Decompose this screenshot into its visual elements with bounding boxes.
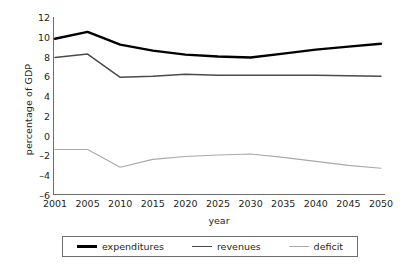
y-tick-label: 10 xyxy=(28,31,50,42)
y-tick-label: –4 xyxy=(28,170,50,181)
x-tick-label: 2030 xyxy=(239,198,263,209)
x-axis-title: year xyxy=(53,215,385,226)
axis-lines xyxy=(53,17,385,195)
x-tick-label: 2025 xyxy=(206,198,230,209)
legend-label-revenues: revenues xyxy=(217,241,261,252)
legend-label-expenditures: expenditures xyxy=(102,241,164,252)
x-tick-label: 2005 xyxy=(76,198,100,209)
plot-canvas xyxy=(53,17,385,195)
y-tick-label: –2 xyxy=(28,150,50,161)
series-lines xyxy=(55,32,381,168)
legend-label-deficit: deficit xyxy=(314,241,343,252)
x-tick-label: 2045 xyxy=(336,198,360,209)
legend-item-revenues: revenues xyxy=(192,241,261,252)
y-axis-tick-labels: 121086420–2–4–6 xyxy=(24,17,50,195)
legend-item-expenditures: expenditures xyxy=(77,241,164,252)
x-tick-label: 2001 xyxy=(43,198,67,209)
x-tick-label: 2010 xyxy=(108,198,132,209)
x-tick-label: 2020 xyxy=(173,198,197,209)
y-tick-label: 12 xyxy=(28,12,50,23)
chart-figure: percentage of GDP 121086420–2–4–6 200120… xyxy=(0,0,420,266)
x-tick-label: 2050 xyxy=(369,198,393,209)
y-tick-label: 6 xyxy=(28,71,50,82)
x-axis-tick-labels: 2001200520102015202020252030203520402045… xyxy=(53,198,385,212)
y-tick-label: 4 xyxy=(28,91,50,102)
y-tick-label: 8 xyxy=(28,51,50,62)
series-line-deficit xyxy=(55,150,381,169)
plot-area xyxy=(53,17,385,195)
series-line-expenditures xyxy=(55,32,381,58)
x-tick-label: 2035 xyxy=(271,198,295,209)
y-tick-label: 2 xyxy=(28,110,50,121)
legend-swatch-deficit xyxy=(289,246,309,247)
legend-swatch-revenues xyxy=(192,246,212,248)
chart-legend: expenditures revenues deficit xyxy=(62,236,358,257)
x-tick-label: 2040 xyxy=(304,198,328,209)
y-tick-label: 0 xyxy=(28,130,50,141)
x-tick-label: 2015 xyxy=(141,198,165,209)
legend-swatch-expenditures xyxy=(77,245,97,247)
legend-item-deficit: deficit xyxy=(289,241,343,252)
